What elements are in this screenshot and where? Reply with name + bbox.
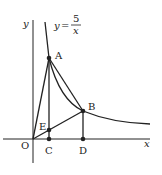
label-B: B xyxy=(88,101,95,112)
label-C: C xyxy=(45,145,53,156)
segment-AB xyxy=(49,58,83,111)
point-D xyxy=(81,137,86,142)
label-E: E xyxy=(39,121,46,132)
label-A: A xyxy=(54,50,63,61)
point-E xyxy=(47,128,52,133)
y-axis-label: y xyxy=(22,18,29,29)
point-A xyxy=(47,56,52,61)
curve-label-eq: = xyxy=(61,20,69,31)
hyperbola-curve xyxy=(45,22,150,124)
curve-label-numerator: 5 xyxy=(73,13,79,24)
x-axis-label: x xyxy=(144,138,150,149)
point-B xyxy=(81,109,86,114)
curve-label-lhs: y xyxy=(53,20,60,31)
curve-label-denominator: x xyxy=(73,25,79,36)
diagram-canvas: y x O y = 5 x A B E C D xyxy=(0,0,162,175)
point-C xyxy=(47,137,52,142)
label-D: D xyxy=(79,145,87,156)
origin-label: O xyxy=(21,140,29,151)
